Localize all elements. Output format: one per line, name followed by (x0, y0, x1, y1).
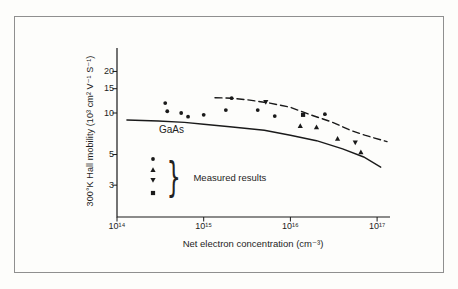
circle-point (256, 108, 260, 112)
legend-marker-column (147, 154, 159, 200)
y-tick-label: 3 (92, 180, 114, 190)
triangle-up-point (314, 124, 319, 129)
legend-marker-triangle-down (150, 178, 155, 183)
triangle-up-point (298, 123, 303, 128)
triangle-up-point (335, 136, 340, 141)
circle-point (202, 113, 206, 117)
y-tick-label: 15 (92, 83, 114, 93)
triangle-down-point (353, 141, 358, 146)
circle-point (163, 101, 167, 105)
y-tick-label: 5 (92, 149, 114, 159)
x-tick-label: 10¹⁴ (103, 221, 131, 231)
x-tick-label: 10¹⁵ (190, 221, 218, 231)
y-axis-label: 300°K Hall mobility (10³ cm² V⁻¹ S⁻¹) (85, 11, 95, 251)
circle-point (179, 111, 183, 115)
y-tick-label: 20 (92, 66, 114, 76)
legend-marker-square (151, 191, 155, 195)
circle-point (165, 109, 169, 113)
x-axis-label: Net electron concentration (cm⁻³) (128, 238, 378, 249)
circle-point (273, 114, 277, 118)
figure: 300°K Hall mobility (10³ cm² V⁻¹ S⁻¹) Ne… (0, 0, 458, 289)
legend-brace: } (167, 154, 181, 200)
legend-marker-circle (151, 157, 155, 161)
x-tick-label: 10¹⁶ (276, 221, 304, 231)
triangle-up-point (358, 149, 363, 154)
gaas-curve-label: GaAs (159, 124, 184, 135)
series-upper-bound-curve (215, 98, 387, 142)
legend-marker-triangle-up (150, 167, 155, 172)
y-tick-label: 10 (92, 108, 114, 118)
series-measured-triangles-down (263, 100, 358, 145)
x-tick-label: 10¹⁷ (363, 221, 391, 231)
legend-label: Measured results (193, 172, 266, 183)
upper-bound-curve-path (215, 98, 387, 142)
series-measured-squares (301, 113, 305, 117)
circle-point (323, 112, 327, 116)
circle-point (224, 108, 228, 112)
circle-point (186, 115, 190, 119)
square-point (301, 113, 305, 117)
legend: } Measured results (147, 154, 266, 200)
